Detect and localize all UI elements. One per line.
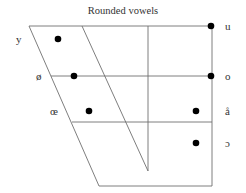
vowel-label: y: [16, 33, 22, 45]
vowel-dot: [208, 23, 215, 30]
vowel-label: u: [225, 20, 231, 32]
central-slant: [82, 26, 148, 171]
vowel-dot: [193, 140, 200, 147]
vowel-dot: [86, 108, 93, 115]
vowel-label: œ: [50, 105, 58, 117]
vowel-label: ɔ: [225, 137, 230, 149]
vowel-labels: yøœuoåɔ: [16, 20, 231, 149]
vowel-label: o: [225, 70, 231, 82]
vowel-dot: [71, 73, 78, 80]
vowel-dot: [55, 36, 62, 43]
vowel-label: ø: [36, 70, 42, 82]
left-edge: [29, 26, 99, 186]
vowel-trapezoid: yøœuoåɔ: [0, 0, 246, 193]
vowel-dots: [55, 23, 215, 147]
vowel-dot: [193, 108, 200, 115]
chart-title: Rounded vowels: [0, 5, 246, 16]
vowel-dot: [208, 73, 215, 80]
vowel-chart: Rounded vowels yøœuoåɔ: [0, 0, 246, 193]
vowel-label: å: [225, 105, 230, 117]
